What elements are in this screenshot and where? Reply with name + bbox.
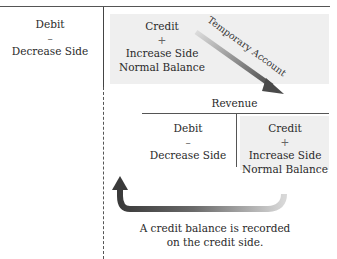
- caption-line1: A credit balance is recorded: [130, 221, 300, 235]
- revenue-credit-label: Credit: [268, 122, 302, 134]
- minus-sign: –: [140, 136, 236, 150]
- revenue-debit-label: Debit: [174, 122, 203, 134]
- revenue-debit-cell: Debit – Decrease Side: [140, 122, 236, 163]
- revenue-debit-description: Decrease Side: [150, 149, 226, 161]
- plus-sign: +: [238, 136, 332, 150]
- caption-line2: on the credit side.: [130, 235, 300, 249]
- revenue-divider: [236, 113, 237, 167]
- revenue-title: Revenue: [140, 97, 329, 109]
- curved-return-arrow-icon: [112, 176, 284, 209]
- revenue-credit-line1: Increase Side: [238, 149, 332, 163]
- caption: A credit balance is recorded on the cred…: [130, 221, 300, 249]
- revenue-credit-cell: Credit + Increase Side Normal Balance: [238, 122, 332, 176]
- revenue-credit-line2: Normal Balance: [238, 163, 332, 177]
